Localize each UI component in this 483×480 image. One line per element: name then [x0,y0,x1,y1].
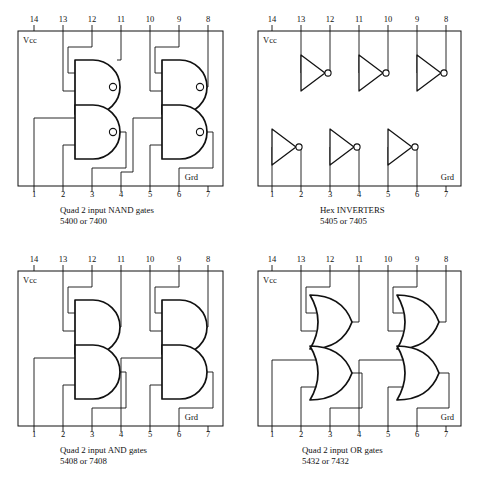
panel-caption-line2: 5408 or 7408 [60,456,108,466]
pin-label-10: 10 [384,254,393,264]
panel-caption-line2: 5400 or 7400 [60,216,108,226]
pin-numbers-top: 14 13 12 11 10 9 8 [30,254,210,264]
pin-label-10: 10 [384,14,393,24]
inverter-top-2 [359,31,389,91]
inversion-bubble [109,83,116,90]
grd-label: Grd [441,412,455,422]
pin-label-8: 8 [444,254,448,264]
panel-nand: 14 13 12 11 10 9 8 1 2 3 4 5 6 7 [0,0,241,240]
gate-nand-upper-left [63,31,121,114]
inverter-top-1 [301,31,331,91]
inversion-bubble [296,144,302,150]
gate-or-lower-left [272,346,362,426]
grd-label: Grd [185,172,199,182]
panel-caption-line1: Quad 2 input AND gates [60,445,148,455]
panel-caption-line2: 5432 or 7432 [302,456,349,466]
gate-and-lower-left [34,345,126,426]
ic-package-outline [258,31,461,186]
pin-label-9: 9 [415,14,419,24]
gate-and-upper-right [150,271,208,354]
panel-inverter: 14 13 12 11 10 9 8 1 2 3 4 5 6 7 [242,0,483,240]
pin-label-12: 12 [88,254,97,264]
vcc-label: Vcc [263,35,277,45]
gate-or-upper-left [301,271,359,349]
pin-label-14: 14 [30,14,39,24]
pin-label-12: 12 [326,14,335,24]
inversion-bubble [383,70,389,76]
inversion-bubble [196,128,203,135]
gate-nand-lower-left [34,105,126,186]
panel-caption-line1: Hex INVERTERS [320,205,385,215]
inverter-bottom-1 [272,129,302,186]
pin-label-13: 13 [59,14,68,24]
gate-and-lower-right [121,345,213,426]
pin-label-13: 13 [59,254,68,264]
ic-package-outline [258,271,461,426]
pin-label-14: 14 [268,14,277,24]
pin-label-9: 9 [177,14,181,24]
pin-label-11: 11 [355,254,363,264]
inverter-top-3 [417,31,447,91]
grd-label: Grd [441,172,455,182]
gate-nand-upper-right [150,31,208,114]
panel-or: 14 13 12 11 10 9 8 1 2 3 4 5 6 7 [242,240,483,480]
gate-or-lower-right [359,346,449,426]
pin-label-10: 10 [146,14,155,24]
pinout-figure: 14 13 12 11 10 9 8 1 2 3 4 5 6 7 [0,0,483,480]
pin-label-11: 11 [117,254,125,264]
panel-and: 14 13 12 11 10 9 8 1 2 3 4 5 6 7 [0,240,241,480]
pin-label-8: 8 [206,254,210,264]
vcc-label: Vcc [23,275,37,285]
panel-caption-line1: Quad 2 input OR gates [302,445,383,455]
panel-caption-line1: Quad 2 input NAND gates [60,205,154,215]
inversion-bubble [325,70,331,76]
pin-label-12: 12 [326,254,335,264]
vcc-label: Vcc [263,275,277,285]
pin-label-13: 13 [297,14,306,24]
pin-label-11: 11 [117,14,125,24]
pin-label-12: 12 [88,14,97,24]
gate-or-upper-right [388,271,446,349]
inverter-bottom-2 [330,129,360,186]
gate-and-upper-left [63,271,121,354]
panel-caption-line2: 5405 or 7405 [320,216,368,226]
pin-label-9: 9 [177,254,181,264]
inversion-bubble [412,144,418,150]
pin-numbers-top: 14 13 12 11 10 9 8 [268,14,448,24]
pin-label-10: 10 [146,254,155,264]
inversion-bubble [354,144,360,150]
pin-label-14: 14 [30,254,39,264]
pin-numbers-top: 14 13 12 11 10 9 8 [30,14,210,24]
inverter-bottom-3 [388,129,418,186]
pin-numbers-top: 14 13 12 11 10 9 8 [268,254,448,264]
pin-label-8: 8 [206,14,210,24]
pin-label-14: 14 [268,254,277,264]
pin-label-13: 13 [297,254,306,264]
inversion-bubble [196,83,203,90]
vcc-label: Vcc [23,35,37,45]
pin-label-8: 8 [444,14,448,24]
pin-label-9: 9 [415,254,419,264]
inversion-bubble [441,70,447,76]
pin-label-11: 11 [355,14,363,24]
inversion-bubble [109,128,116,135]
gate-nand-lower-right [121,105,213,186]
grd-label: Grd [185,412,199,422]
